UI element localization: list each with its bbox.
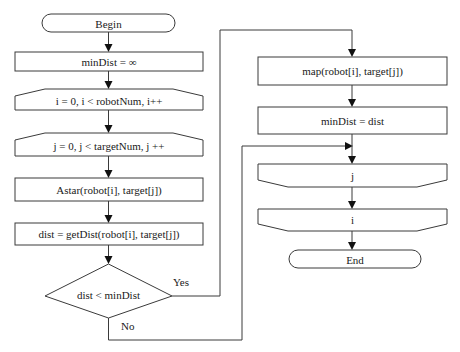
- arrow-down-icon: [105, 256, 113, 264]
- yes-label: Yes: [173, 276, 189, 288]
- loop-i-end-label: i: [351, 214, 354, 226]
- arrow-down-icon: [105, 81, 113, 89]
- begin-label: Begin: [95, 18, 122, 30]
- loop-j-end-label: j: [350, 170, 354, 182]
- begin-node: Begin: [42, 14, 175, 32]
- init-min-dist-node: minDist = ∞: [15, 52, 203, 71]
- arrow-down-icon: [348, 156, 356, 164]
- update-min-dist-node: minDist = dist: [258, 107, 447, 134]
- arrow-down-icon: [348, 201, 356, 209]
- init-min-dist-label: minDist = ∞: [82, 56, 137, 68]
- flowchart: Begin minDist = ∞ i = 0, i < robotNum, i…: [0, 0, 460, 352]
- map-label: map(robot[i], target[j]): [302, 65, 403, 78]
- arrow-down-icon: [105, 44, 113, 52]
- arrow-down-icon: [105, 215, 113, 223]
- arrow-down-icon: [105, 125, 113, 133]
- loop-i-start-label: i = 0, i < robotNum, i++: [56, 95, 163, 107]
- decision-label: dist < minDist: [77, 289, 140, 301]
- map-node: map(robot[i], target[j]): [258, 57, 447, 85]
- arrow-down-icon: [348, 49, 356, 57]
- end-node: End: [289, 250, 421, 268]
- loop-j-start-node: j = 0, j < targetNum, j ++: [15, 133, 203, 156]
- arrow-down-icon: [105, 170, 113, 178]
- get-dist-label: dist = getDist(robot[i], target[j]): [38, 228, 179, 241]
- astar-node: Astar(robot[i], target[j]): [15, 178, 203, 201]
- end-label: End: [346, 254, 364, 266]
- update-min-dist-label: minDist = dist: [321, 115, 384, 127]
- loop-j-start-label: j = 0, j < targetNum, j ++: [52, 140, 164, 152]
- loop-i-end-node: i: [258, 209, 447, 231]
- no-label: No: [121, 320, 135, 332]
- arrow-down-icon: [348, 99, 356, 107]
- loop-j-end-node: j: [258, 164, 447, 187]
- get-dist-node: dist = getDist(robot[i], target[j]): [15, 223, 203, 245]
- astar-label: Astar(robot[i], target[j]): [56, 184, 162, 197]
- arrow-down-icon: [348, 242, 356, 250]
- loop-i-start-node: i = 0, i < robotNum, i++: [15, 89, 203, 110]
- decision-node: dist < minDist: [45, 264, 172, 318]
